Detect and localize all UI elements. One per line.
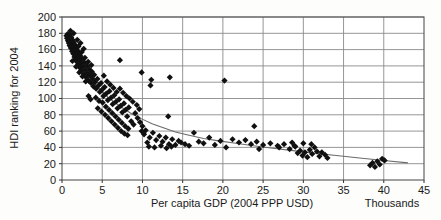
x-tick-label: 5 xyxy=(99,184,105,196)
x-axis-ticks: 051015202530354045 xyxy=(59,180,430,196)
chart-figure: 200180160140120100806040200 051015202530… xyxy=(0,0,441,220)
scatter-chart: 200180160140120100806040200 051015202530… xyxy=(0,0,441,220)
x-tick-label: 45 xyxy=(418,184,430,196)
y-tick-label: 180 xyxy=(38,27,56,39)
x-tick-label: 30 xyxy=(297,184,309,196)
y-tick-label: 200 xyxy=(38,11,56,23)
y-tick-label: 120 xyxy=(38,76,56,88)
y-tick-label: 20 xyxy=(44,158,56,170)
y-tick-label: 60 xyxy=(44,125,56,137)
x-tick-label: 10 xyxy=(136,184,148,196)
y-tick-label: 140 xyxy=(38,60,56,72)
x-tick-label: 35 xyxy=(337,184,349,196)
y-axis-title: HDI ranking for 2004 xyxy=(8,47,20,149)
x-axis-title: Per capita GDP (2004 PPP USD) xyxy=(151,197,313,209)
y-tick-label: 40 xyxy=(44,141,56,153)
y-tick-label: 100 xyxy=(38,92,56,104)
x-tick-label: 40 xyxy=(378,184,390,196)
x-tick-label: 25 xyxy=(257,184,269,196)
y-tick-label: 0 xyxy=(50,174,56,186)
x-axis-unit-label: Thousands xyxy=(365,197,420,209)
x-tick-label: 0 xyxy=(59,184,65,196)
x-tick-label: 20 xyxy=(217,184,229,196)
y-tick-label: 160 xyxy=(38,43,56,55)
x-tick-label: 15 xyxy=(177,184,189,196)
y-axis-ticks: 200180160140120100806040200 xyxy=(38,11,62,186)
y-tick-label: 80 xyxy=(44,109,56,121)
